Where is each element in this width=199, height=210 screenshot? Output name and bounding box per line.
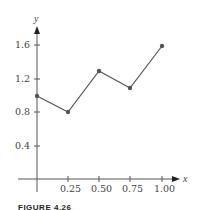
x-tick-label: 0.75 [122, 183, 143, 194]
line-chart: y x 0.4 0.8 1.2 1.6 0.25 0.50 0.75 1.00 [0, 0, 199, 210]
data-line [37, 46, 162, 112]
data-point [128, 86, 132, 90]
x-axis-label: x [182, 173, 188, 184]
x-tick-label: 1.00 [154, 183, 175, 194]
y-tick-label: 0.4 [15, 140, 30, 151]
data-point [97, 69, 101, 73]
data-point [160, 44, 164, 48]
x-tick-label: 0.25 [60, 183, 81, 194]
x-axis-arrow-icon [172, 176, 180, 182]
x-tick-label: 0.50 [91, 183, 112, 194]
y-tick-label: 0.8 [15, 106, 30, 117]
data-points [35, 44, 164, 114]
data-point [35, 94, 39, 98]
y-tick-label: 1.6 [15, 39, 30, 50]
figure-caption: FIGURE 4.26 [18, 203, 72, 210]
y-axis-label: y [33, 13, 39, 24]
data-point [66, 110, 70, 114]
y-axis-arrow-icon [34, 26, 40, 34]
y-tick-label: 1.2 [15, 73, 30, 84]
